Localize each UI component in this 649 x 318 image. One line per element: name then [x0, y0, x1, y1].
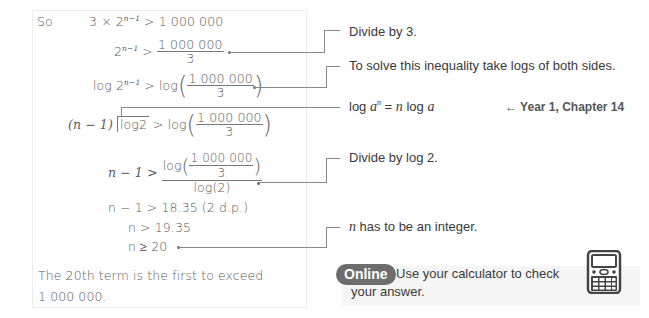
- calculator-icon: [586, 250, 622, 294]
- working-line-8: n ≥ 20: [128, 239, 167, 254]
- working-line-3: log 2n−1 > log(1 000 0003): [93, 72, 263, 100]
- connector-line: [178, 247, 326, 248]
- connector-line: [326, 66, 340, 67]
- connector-line: [121, 107, 340, 108]
- connector-line: [326, 158, 327, 183]
- online-badge: Online: [336, 264, 396, 285]
- conclusion-line-2: 1 000 000.: [38, 289, 107, 304]
- conclusion-line-1: The 20th term is the first to exceed: [38, 268, 263, 283]
- note-log-rule: log an = n log a: [349, 99, 434, 115]
- connector-line: [326, 158, 340, 159]
- connector-line: [229, 52, 324, 53]
- connector-line: [326, 227, 340, 228]
- working-line-6: n − 1 > 18.35 (2 d.p.): [108, 200, 248, 215]
- working-line-7: n > 19.35: [128, 220, 191, 235]
- note-integer: n has to be an integer.: [349, 219, 477, 235]
- chapter-reference: ← Year 1, Chapter 14: [505, 100, 624, 114]
- connector-line: [254, 87, 326, 88]
- online-text-1: Use your calculator to check: [396, 266, 559, 281]
- fraction: 1 000 0003: [157, 38, 224, 66]
- working-line-4: (n − 1) log2 > log(1 000 0003): [68, 111, 272, 139]
- connector-line: [326, 66, 327, 88]
- connector-line: [326, 227, 327, 248]
- so-label: So: [37, 14, 53, 29]
- note-take-logs: To solve this inequality take logs of bo…: [349, 58, 616, 73]
- working-line-2: 2n−1 > 1 000 0003: [114, 38, 224, 66]
- note-divide-by-3: Divide by 3.: [349, 24, 417, 39]
- connector-line: [324, 30, 340, 31]
- connector-line: [121, 107, 122, 116]
- working-line-5: n − 1 > log(1 000 0003) log(2): [108, 152, 262, 195]
- note-divide-by-log2: Divide by log 2.: [349, 150, 438, 165]
- connector-line: [258, 182, 326, 183]
- working-line-1: 3 × 2n−1 > 1 000 000: [89, 14, 223, 29]
- connector-line: [324, 30, 325, 53]
- online-text-2: your answer.: [351, 284, 425, 299]
